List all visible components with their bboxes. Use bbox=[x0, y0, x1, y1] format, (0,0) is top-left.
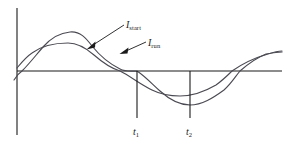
arrow-head-i-run bbox=[120, 48, 129, 55]
waveform-plot bbox=[0, 0, 296, 141]
label-i-run-subscript: run bbox=[151, 42, 160, 49]
label-t1: t1 bbox=[133, 122, 139, 138]
leader-line-i-start bbox=[93, 25, 124, 45]
figure-container: Istart Irun t1 t2 bbox=[0, 0, 296, 141]
label-i-start: Istart bbox=[126, 15, 141, 31]
label-i-start-subscript: start bbox=[129, 24, 141, 31]
label-t1-subscript: 1 bbox=[136, 131, 139, 138]
leader-line-i-run bbox=[126, 42, 146, 51]
label-i-run: Irun bbox=[148, 33, 160, 49]
label-t2: t2 bbox=[186, 122, 192, 138]
label-t2-subscript: 2 bbox=[189, 131, 192, 138]
